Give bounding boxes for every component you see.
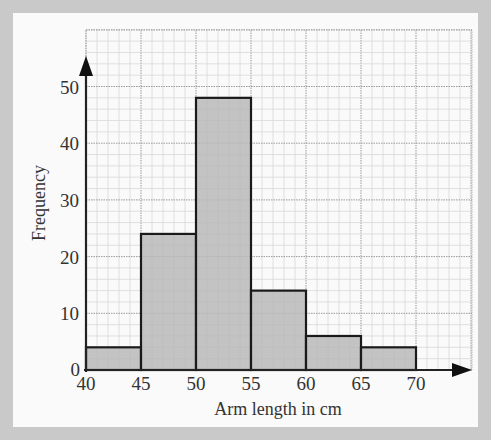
x-tick-label: 55 xyxy=(242,373,261,394)
y-tick-label: 20 xyxy=(60,247,79,268)
x-tick-label: 40 xyxy=(77,373,96,394)
y-tick-label: 30 xyxy=(60,190,79,211)
histogram-bar xyxy=(306,336,361,370)
histogram-bar xyxy=(86,347,141,370)
x-axis-label: Arm length in cm xyxy=(214,399,341,419)
x-tick-label: 45 xyxy=(132,373,151,394)
x-tick-labels: 40455055606570 xyxy=(77,373,426,394)
x-tick-label: 50 xyxy=(187,373,206,394)
y-tick-label: 50 xyxy=(60,77,79,98)
histogram-bar xyxy=(141,234,196,370)
histogram-bar xyxy=(251,291,306,370)
y-axis-label: Frequency xyxy=(29,165,49,241)
y-tick-label: 40 xyxy=(60,133,79,154)
y-tick-label: 10 xyxy=(60,303,79,324)
x-tick-label: 70 xyxy=(407,373,426,394)
histogram-bar xyxy=(196,98,251,370)
y-tick-labels: 01020304050 xyxy=(60,77,80,381)
x-axis-arrow-icon xyxy=(452,363,472,377)
y-axis-arrow-icon xyxy=(79,56,93,76)
x-tick-label: 65 xyxy=(352,373,371,394)
x-tick-label: 60 xyxy=(297,373,316,394)
histogram-bar xyxy=(361,347,416,370)
histogram-chart: 01020304050 40455055606570 Arm length in… xyxy=(0,0,491,440)
